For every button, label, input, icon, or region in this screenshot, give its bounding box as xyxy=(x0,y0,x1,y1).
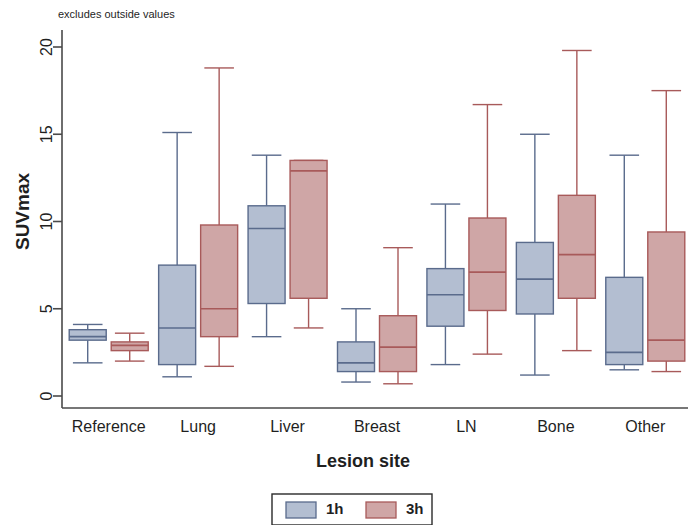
legend-swatch-1h xyxy=(286,502,316,518)
excludes-note: excludes outside values xyxy=(58,4,175,22)
box-ln-1h xyxy=(427,204,464,365)
box-rect xyxy=(159,265,196,364)
box-rect xyxy=(380,316,417,372)
x-tick-label-ln: LN xyxy=(456,418,476,435)
box-rect xyxy=(469,218,506,310)
box-rect xyxy=(111,342,148,351)
y-tick-label: 0 xyxy=(38,391,55,400)
legend-label-1h: 1h xyxy=(326,500,344,517)
x-tick-label-lung: Lung xyxy=(180,418,216,435)
box-rect xyxy=(69,330,106,340)
legend: 1h3h xyxy=(272,494,432,525)
box-liver-3h xyxy=(290,160,327,328)
y-tick-label: 5 xyxy=(38,304,55,313)
legend-label-3h: 3h xyxy=(406,500,424,517)
box-other-1h xyxy=(606,155,643,370)
box-reference-3h xyxy=(111,333,148,361)
y-tick-label: 15 xyxy=(38,125,55,143)
box-breast-1h xyxy=(338,309,375,382)
box-rect xyxy=(606,277,643,364)
box-breast-3h xyxy=(380,248,417,384)
y-tick-label: 10 xyxy=(38,213,55,231)
legend-swatch-3h xyxy=(366,502,396,518)
x-tick-label-breast: Breast xyxy=(354,418,401,435)
box-rect xyxy=(516,242,553,314)
box-bone-3h xyxy=(558,50,595,350)
box-rect xyxy=(290,160,327,298)
box-liver-1h xyxy=(248,155,285,336)
x-axis-title: Lesion site xyxy=(316,451,410,471)
box-lung-1h xyxy=(159,133,196,377)
y-axis-title: SUVmax xyxy=(12,173,33,251)
boxplot-figure: 05101520 SUVmaxReferenceLungLiverBreastL… xyxy=(0,0,691,525)
y-tick-label: 20 xyxy=(38,38,55,56)
box-rect xyxy=(248,206,285,304)
box-series-layer xyxy=(69,50,685,383)
box-ln-3h xyxy=(469,105,506,355)
x-tick-label-other: Other xyxy=(625,418,666,435)
x-tick-label-reference: Reference xyxy=(72,418,146,435)
excludes-note-text: excludes outside values xyxy=(58,8,175,20)
boxplot-svg: 05101520 SUVmaxReferenceLungLiverBreastL… xyxy=(0,0,691,525)
box-other-3h xyxy=(648,91,685,372)
x-tick-label-liver: Liver xyxy=(270,418,305,435)
box-rect xyxy=(558,195,595,298)
box-bone-1h xyxy=(516,134,553,375)
box-reference-1h xyxy=(69,324,106,362)
box-rect xyxy=(427,269,464,327)
box-rect xyxy=(338,342,375,372)
box-rect xyxy=(648,232,685,361)
box-lung-3h xyxy=(201,68,238,366)
x-tick-label-bone: Bone xyxy=(537,418,574,435)
box-rect xyxy=(201,225,238,337)
